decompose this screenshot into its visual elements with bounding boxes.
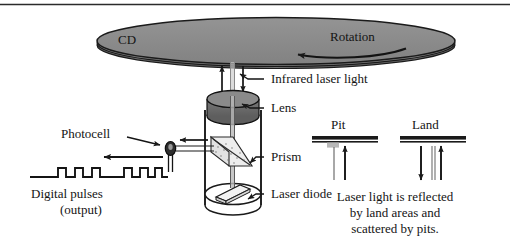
land-label: Land — [412, 118, 439, 132]
output-label-line2: (output) — [60, 203, 102, 217]
callout-infrared-label: Infrared laser light — [271, 72, 368, 86]
land-diagram — [400, 136, 466, 180]
callout-lens-label: Lens — [271, 101, 296, 115]
pit-land-caption-line3: scattered by pits. — [300, 222, 490, 236]
photocell-element — [165, 142, 175, 173]
cd-laser-diagram: CD Rotation Infrared laser light Lens Pr… — [0, 0, 510, 244]
cd-disc — [97, 18, 455, 69]
callout-photocell-label: Photocell — [61, 127, 110, 141]
pit-diagram — [312, 136, 378, 180]
disc-top-surface — [97, 18, 455, 65]
pit-land-caption-line2: by land areas and — [300, 206, 490, 220]
leader-photocell — [127, 137, 160, 145]
digital-pulse-waveform — [30, 168, 168, 177]
disc-label: CD — [118, 33, 136, 47]
rotation-label: Rotation — [330, 30, 375, 44]
output-label-line1: Digital pulses — [31, 187, 103, 201]
callout-prism-label: Prism — [271, 150, 301, 164]
pit-land-caption-line1: Laser light is reflected — [300, 190, 490, 204]
pit-label: Pit — [331, 118, 345, 132]
